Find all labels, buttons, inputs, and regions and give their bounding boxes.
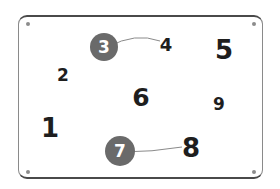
corner-screw-dot xyxy=(252,22,256,26)
number-2[interactable]: 2 xyxy=(57,67,69,84)
corner-screw-dot xyxy=(26,22,30,26)
number-8[interactable]: 8 xyxy=(182,135,200,161)
number-4[interactable]: 4 xyxy=(160,36,173,54)
corner-screw-dot xyxy=(252,170,256,174)
circled-number-3[interactable]: 3 xyxy=(90,33,118,61)
number-6[interactable]: 6 xyxy=(132,85,149,110)
number-5[interactable]: 5 xyxy=(215,37,233,63)
circled-number-7[interactable]: 7 xyxy=(105,136,135,166)
number-9[interactable]: 9 xyxy=(213,96,225,113)
corner-screw-dot xyxy=(26,170,30,174)
number-1[interactable]: 1 xyxy=(41,115,59,141)
